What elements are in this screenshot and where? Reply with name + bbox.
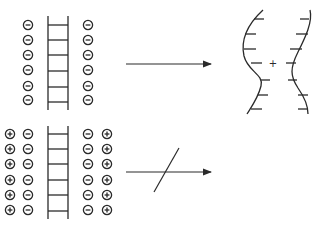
minus-charge-icon bbox=[83, 159, 92, 168]
plus-charge-icon bbox=[5, 129, 14, 138]
left-bowed-strand bbox=[243, 10, 263, 114]
minus-charge-icon bbox=[23, 205, 32, 214]
top-right-minus-charges bbox=[83, 20, 92, 104]
bottom-ladder bbox=[48, 126, 68, 219]
plus-charge-icon bbox=[102, 205, 111, 214]
plus-charge-icon bbox=[102, 144, 111, 153]
plus-charge-icon bbox=[5, 175, 14, 184]
minus-charge-icon bbox=[83, 65, 92, 74]
bottom-left-outer-plus-charges bbox=[5, 129, 14, 214]
minus-charge-icon bbox=[23, 159, 32, 168]
minus-charge-icon bbox=[23, 95, 32, 104]
top-left-minus-charges bbox=[23, 20, 32, 104]
minus-charge-icon bbox=[83, 144, 92, 153]
plus-charge-icon bbox=[5, 159, 14, 168]
minus-charge-icon bbox=[83, 50, 92, 59]
minus-charge-icon bbox=[23, 144, 32, 153]
diagram-canvas: + bbox=[0, 0, 320, 229]
right-bowed-strand bbox=[292, 10, 311, 114]
right-strand-ticks bbox=[286, 19, 309, 109]
plus-charge-icon bbox=[102, 159, 111, 168]
minus-charge-icon bbox=[83, 81, 92, 90]
minus-charge-icon bbox=[23, 190, 32, 199]
minus-charge-icon bbox=[83, 205, 92, 214]
minus-charge-icon bbox=[23, 20, 32, 29]
plus-charge-icon bbox=[5, 205, 14, 214]
minus-charge-icon bbox=[23, 50, 32, 59]
minus-charge-icon bbox=[23, 81, 32, 90]
plus-charge-icon bbox=[102, 175, 111, 184]
strike-through-slash bbox=[154, 148, 179, 192]
bottom-panel bbox=[5, 126, 211, 219]
bottom-left-inner-minus-charges bbox=[23, 129, 32, 214]
minus-charge-icon bbox=[83, 175, 92, 184]
bottom-right-outer-plus-charges bbox=[102, 129, 111, 214]
minus-charge-icon bbox=[83, 20, 92, 29]
minus-charge-icon bbox=[23, 129, 32, 138]
minus-charge-icon bbox=[83, 95, 92, 104]
minus-charge-icon bbox=[23, 65, 32, 74]
plus-charge-icon bbox=[5, 190, 14, 199]
plus-charge-icon bbox=[5, 144, 14, 153]
top-panel: + bbox=[23, 10, 310, 114]
minus-charge-icon bbox=[83, 35, 92, 44]
center-plus-label: + bbox=[269, 58, 277, 69]
minus-charge-icon bbox=[23, 175, 32, 184]
top-ladder bbox=[48, 16, 68, 110]
minus-charge-icon bbox=[83, 190, 92, 199]
minus-charge-icon bbox=[23, 35, 32, 44]
bottom-right-inner-minus-charges bbox=[83, 129, 92, 214]
plus-charge-icon bbox=[102, 190, 111, 199]
minus-charge-icon bbox=[83, 129, 92, 138]
plus-charge-icon bbox=[102, 129, 111, 138]
